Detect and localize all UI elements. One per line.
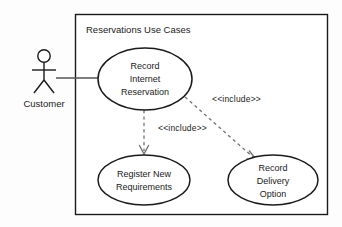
use-case-label-line-2: Delivery	[257, 176, 290, 186]
use-case-diagram-canvas: Reservations Use Cases Customer <<includ…	[0, 0, 342, 227]
use-case-label-line-1: Record	[130, 61, 159, 71]
use-case-label-line-1: Register New	[117, 169, 172, 179]
actor-customer[interactable]: Customer	[23, 50, 64, 109]
use-case-record-delivery-option[interactable]: Record Delivery Option	[228, 155, 318, 205]
system-boundary-title: Reservations Use Cases	[86, 24, 191, 35]
actor-head-icon	[38, 50, 50, 62]
use-case-label-line-3: Reservation	[121, 87, 169, 97]
actor-right-leg-line	[44, 80, 54, 93]
dependency-stereotype-label: <<include>>	[212, 94, 261, 104]
use-case-label-line-2: Requirements	[116, 182, 173, 192]
actor-customer-label: Customer	[23, 98, 64, 109]
use-case-label-line-3: Option	[260, 189, 287, 199]
actor-left-leg-line	[34, 80, 44, 93]
use-case-label-line-2: Internet	[130, 74, 161, 84]
use-case-ellipse	[98, 155, 190, 205]
dependency-stereotype-label: <<include>>	[158, 123, 207, 133]
use-case-record-internet-reservation[interactable]: Record Internet Reservation	[98, 48, 192, 110]
use-case-register-new-requirements[interactable]: Register New Requirements	[98, 155, 190, 205]
use-case-label-line-1: Record	[258, 163, 287, 173]
